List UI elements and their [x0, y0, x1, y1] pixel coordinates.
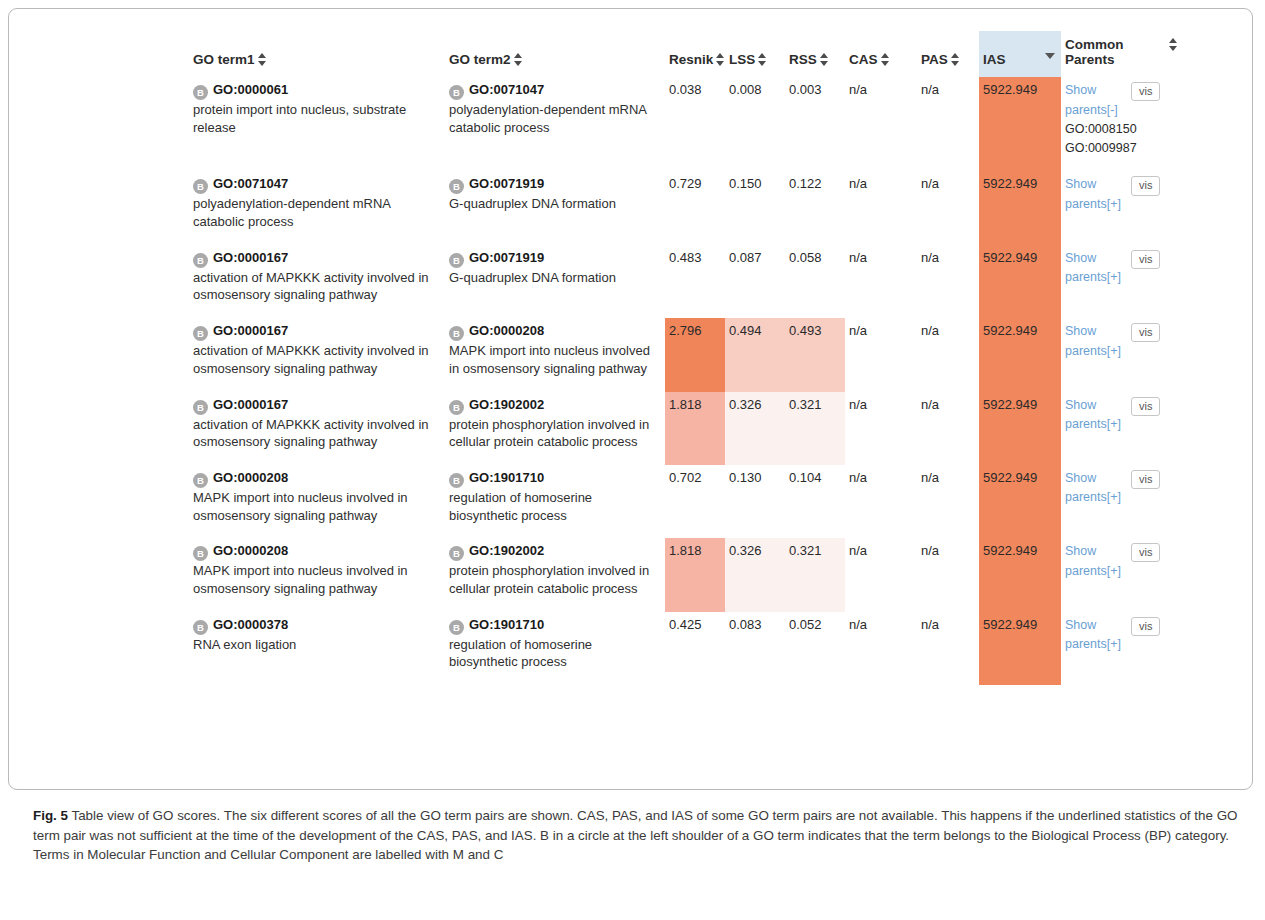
cell-term2: BGO:0071919G-quadruplex DNA formation	[445, 171, 665, 244]
cell-ias: 5922.949	[979, 612, 1061, 685]
show-parents-link[interactable]: Show parents[-]	[1065, 81, 1125, 120]
sort-updown-icon[interactable]	[881, 53, 889, 66]
term2-id[interactable]: GO:1902002	[469, 397, 544, 412]
table-row: BGO:0000208MAPK import into nucleus invo…	[189, 538, 1181, 611]
cell-rss: 0.122	[785, 171, 845, 244]
show-parents-link[interactable]: Show parents[+]	[1065, 542, 1125, 581]
term2-id[interactable]: GO:0000208	[469, 323, 544, 338]
common-parents-text-block: Show parents[+]	[1065, 469, 1125, 508]
cell-rss: 0.321	[785, 392, 845, 465]
vis-button[interactable]: vis	[1131, 617, 1160, 636]
term1-id[interactable]: GO:0000208	[213, 543, 288, 558]
figure-caption: Fig. 5 Table view of GO scores. The six …	[33, 806, 1238, 865]
cell-term1: BGO:0000167activation of MAPKKK activity…	[189, 392, 445, 465]
common-parent-id[interactable]: GO:0009987	[1065, 139, 1177, 158]
column-header-ias[interactable]: IAS	[979, 31, 1061, 77]
term1-id[interactable]: GO:0000167	[213, 323, 288, 338]
show-parents-link[interactable]: Show parents[+]	[1065, 396, 1125, 435]
sort-updown-icon[interactable]	[514, 53, 522, 66]
category-badge-icon: B	[193, 473, 208, 488]
sort-updown-icon[interactable]	[716, 53, 724, 66]
common-parents-text-block: Show parents[+]	[1065, 249, 1125, 288]
sort-updown-icon[interactable]	[258, 53, 266, 66]
sort-descending-icon[interactable]	[1045, 53, 1055, 59]
sort-updown-icon[interactable]	[951, 53, 959, 66]
category-badge-icon: B	[449, 179, 464, 194]
show-parents-link[interactable]: Show parents[+]	[1065, 616, 1125, 655]
common-parents-text-block: Show parents[+]	[1065, 542, 1125, 581]
column-header-pas[interactable]: PAS	[917, 31, 979, 77]
cell-term2: BGO:0000208MAPK import into nucleus invo…	[445, 318, 665, 391]
term2-name: G-quadruplex DNA formation	[449, 269, 661, 287]
term2-name: protein phosphorylation involved in cell…	[449, 562, 661, 597]
show-parents-link[interactable]: Show parents[+]	[1065, 469, 1125, 508]
category-badge-icon: B	[193, 326, 208, 341]
show-parents-link[interactable]: Show parents[+]	[1065, 249, 1125, 288]
term1-name: activation of MAPKKK activity involved i…	[193, 416, 441, 451]
cell-cas: n/a	[845, 465, 917, 538]
term1-id-line: BGO:0000167	[193, 249, 441, 268]
term2-name: protein phosphorylation involved in cell…	[449, 416, 661, 451]
vis-button[interactable]: vis	[1131, 397, 1160, 416]
term2-id[interactable]: GO:1901710	[469, 470, 544, 485]
show-parents-link[interactable]: Show parents[+]	[1065, 175, 1125, 214]
cell-term2: BGO:0071047polyadenylation-dependent mRN…	[445, 77, 665, 171]
term1-name: polyadenylation-dependent mRNA catabolic…	[193, 195, 441, 230]
term1-name: activation of MAPKKK activity involved i…	[193, 269, 441, 304]
cell-common-parents: Show parents[+]vis	[1061, 245, 1181, 318]
term1-id[interactable]: GO:0000167	[213, 250, 288, 265]
table-body: BGO:0000061protein import into nucleus, …	[189, 77, 1181, 685]
sort-updown-icon[interactable]	[820, 53, 828, 66]
column-header-common-parents[interactable]: Common Parents	[1061, 31, 1181, 77]
cell-term2: BGO:1901710regulation of homoserine bios…	[445, 612, 665, 685]
term1-id[interactable]: GO:0000167	[213, 397, 288, 412]
term1-id[interactable]: GO:0000208	[213, 470, 288, 485]
term2-id[interactable]: GO:0071047	[469, 82, 544, 97]
vis-button[interactable]: vis	[1131, 543, 1160, 562]
cell-lss: 0.130	[725, 465, 785, 538]
table-header: GO term1 GO term2 Resnik LSS RSS	[189, 31, 1181, 77]
cell-pas: n/a	[917, 171, 979, 244]
column-header-lss-label: LSS	[729, 52, 755, 67]
cell-resnik: 2.796	[665, 318, 725, 391]
term2-id[interactable]: GO:1901710	[469, 617, 544, 632]
cell-ias: 5922.949	[979, 318, 1061, 391]
term1-id-line: BGO:0000208	[193, 469, 441, 488]
column-header-go-term2-label: GO term2	[449, 52, 511, 67]
category-badge-icon: B	[193, 400, 208, 415]
term1-id[interactable]: GO:0071047	[213, 176, 288, 191]
term2-id-line: BGO:1901710	[449, 616, 661, 635]
sort-updown-icon[interactable]	[758, 53, 766, 66]
show-parents-link[interactable]: Show parents[+]	[1065, 322, 1125, 361]
column-header-rss[interactable]: RSS	[785, 31, 845, 77]
column-header-resnik[interactable]: Resnik	[665, 31, 725, 77]
term1-name: MAPK import into nucleus involved in osm…	[193, 489, 441, 524]
category-badge-icon: B	[193, 546, 208, 561]
vis-button[interactable]: vis	[1131, 323, 1160, 342]
cell-common-parents: Show parents[+]vis	[1061, 171, 1181, 244]
term1-id[interactable]: GO:0000061	[213, 82, 288, 97]
cell-rss: 0.104	[785, 465, 845, 538]
category-badge-icon: B	[193, 85, 208, 100]
cell-term1: BGO:0000167activation of MAPKKK activity…	[189, 245, 445, 318]
term2-id[interactable]: GO:1902002	[469, 543, 544, 558]
cell-term1: BGO:0000208MAPK import into nucleus invo…	[189, 538, 445, 611]
cell-term1: BGO:0000167activation of MAPKKK activity…	[189, 318, 445, 391]
vis-button[interactable]: vis	[1131, 250, 1160, 269]
term1-id[interactable]: GO:0000378	[213, 617, 288, 632]
column-header-lss[interactable]: LSS	[725, 31, 785, 77]
column-header-go-term2[interactable]: GO term2	[445, 31, 665, 77]
term1-id-line: BGO:0000208	[193, 542, 441, 561]
cell-lss: 0.087	[725, 245, 785, 318]
column-header-cas[interactable]: CAS	[845, 31, 917, 77]
term2-id[interactable]: GO:0071919	[469, 176, 544, 191]
common-parent-id[interactable]: GO:0008150	[1065, 120, 1177, 139]
term2-id[interactable]: GO:0071919	[469, 250, 544, 265]
term1-id-line: BGO:0000378	[193, 616, 441, 635]
vis-button[interactable]: vis	[1131, 82, 1160, 101]
sort-updown-icon[interactable]	[1169, 38, 1177, 51]
term1-id-line: BGO:0071047	[193, 175, 441, 194]
column-header-go-term1[interactable]: GO term1	[189, 31, 445, 77]
vis-button[interactable]: vis	[1131, 176, 1160, 195]
vis-button[interactable]: vis	[1131, 470, 1160, 489]
